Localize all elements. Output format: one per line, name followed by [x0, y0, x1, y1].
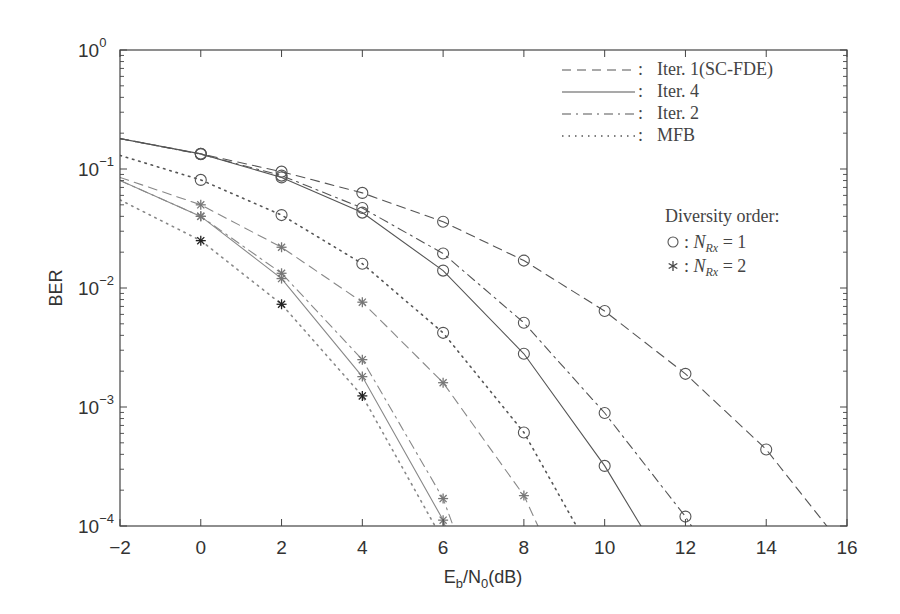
series-line [120, 181, 453, 527]
x-tick-label: 2 [276, 537, 287, 558]
asterisk-marker-icon [277, 274, 287, 284]
series-0 [120, 139, 827, 526]
y-tick-label: 10−1 [78, 154, 114, 180]
y-tick-label: 10−3 [78, 392, 114, 418]
asterisk-marker-icon [357, 297, 367, 307]
legend-diversity-title: Diversity order: [665, 206, 779, 226]
x-tick-label: 8 [519, 537, 530, 558]
legend-label: Iter. 4 [657, 81, 699, 101]
x-tick-label: 16 [836, 537, 857, 558]
y-tick-label: 10−4 [78, 511, 114, 537]
legend-colon: : [638, 103, 643, 123]
circle-marker-icon [438, 327, 449, 338]
legend-circle-icon [668, 237, 678, 247]
legend-label: Iter. 2 [657, 103, 699, 123]
x-tick-label: 10 [594, 537, 615, 558]
circle-marker-icon [438, 248, 449, 259]
asterisk-marker-icon [196, 211, 206, 221]
asterisk-marker-icon [357, 355, 367, 365]
x-tick-labels: −20246810121416 [109, 537, 857, 558]
legend-marker-label: : NRx = 2 [684, 256, 746, 279]
x-tick-label: 6 [438, 537, 449, 558]
x-axis-label: Eb/N0(dB) [444, 567, 523, 591]
asterisk-marker-icon [196, 236, 206, 246]
series-line [120, 139, 641, 526]
y-tick-label: 10−2 [78, 273, 114, 299]
series-line [120, 200, 435, 526]
legend: :Iter. 1(SC-FDE):Iter. 4:Iter. 2:MFBDive… [562, 59, 779, 279]
series-5 [120, 181, 453, 527]
series-line [120, 139, 827, 526]
asterisk-marker-icon [438, 378, 448, 388]
y-tick-label: 100 [78, 35, 106, 61]
ber-chart: −20246810121416 10010−110−210−310−4 BER … [0, 0, 900, 614]
series-line [120, 181, 445, 527]
legend-colon: : [638, 81, 643, 101]
asterisk-marker-icon [438, 494, 448, 504]
legend-asterisk-icon [669, 261, 678, 271]
series-4 [120, 177, 538, 526]
legend-label: MFB [657, 125, 695, 145]
asterisk-marker-icon [357, 372, 367, 382]
series-7 [120, 200, 435, 526]
x-tick-label: 12 [675, 537, 696, 558]
asterisk-marker-icon [277, 299, 287, 309]
x-tick-label: 4 [357, 537, 368, 558]
asterisk-marker-icon [357, 391, 367, 401]
legend-colon: : [638, 59, 643, 79]
series-2 [120, 139, 641, 526]
x-tick-label: −2 [109, 537, 131, 558]
asterisk-marker-icon [277, 242, 287, 252]
series-line [120, 177, 538, 526]
circle-marker-icon [518, 317, 529, 328]
legend-marker-label: : NRx = 1 [684, 232, 746, 255]
series-layer [120, 139, 827, 526]
series-6 [120, 181, 448, 527]
y-axis-label: BER [46, 269, 66, 306]
legend-colon: : [638, 125, 643, 145]
asterisk-marker-icon [196, 200, 206, 210]
legend-label: Iter. 1(SC-FDE) [657, 59, 773, 80]
circle-marker-icon [276, 210, 287, 221]
asterisk-marker-icon [519, 491, 529, 501]
x-tick-label: 0 [195, 537, 206, 558]
x-tick-label: 14 [756, 537, 778, 558]
circle-marker-icon [761, 444, 772, 455]
y-tick-labels: 10010−110−210−310−4 [78, 35, 114, 537]
